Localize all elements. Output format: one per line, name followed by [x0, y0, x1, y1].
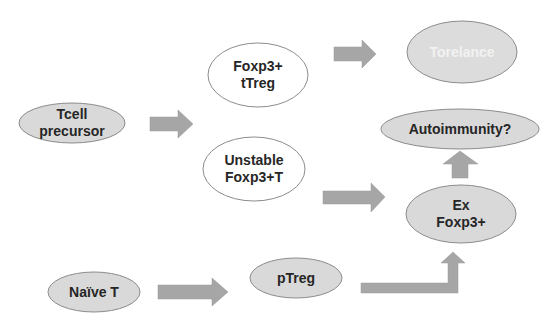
- node-foxp3-ttreg: Foxp3+ tTreg: [208, 43, 308, 107]
- node-foxp3-ttreg-line2: tTreg: [241, 75, 275, 91]
- node-naive-t-label: Naïve T: [69, 284, 119, 300]
- node-naive-t: Naïve T: [48, 272, 140, 312]
- node-ex-foxp3-line1: Ex: [452, 197, 469, 213]
- arrow-right-icon: [150, 110, 193, 138]
- diagram-svg: Tcell precursor Foxp3+ tTreg Torelance A…: [0, 0, 557, 325]
- bent-arrow-up-icon: [361, 252, 465, 293]
- node-autoimmunity: Autoimmunity?: [381, 109, 539, 149]
- node-torelance-label: Torelance: [429, 44, 494, 60]
- arrow-right-icon: [334, 40, 376, 68]
- node-autoimmunity-label: Autoimmunity?: [409, 121, 512, 137]
- node-unstable-foxp3: Unstable Foxp3+T: [203, 137, 305, 201]
- node-tcell-precursor: Tcell precursor: [19, 103, 125, 143]
- node-unstable-foxp3-line2: Foxp3+T: [225, 169, 283, 185]
- arrow-right-icon: [323, 183, 385, 212]
- diagram-canvas: Tcell precursor Foxp3+ tTreg Torelance A…: [0, 0, 557, 325]
- node-ptreg-label: pTreg: [277, 270, 315, 286]
- node-ptreg: pTreg: [250, 258, 342, 298]
- node-ex-foxp3-line2: Foxp3+: [436, 214, 485, 230]
- arrow-right-icon: [158, 278, 228, 306]
- node-foxp3-ttreg-line1: Foxp3+: [233, 58, 282, 74]
- node-ex-foxp3: Ex Foxp3+: [406, 185, 516, 243]
- node-unstable-foxp3-line1: Unstable: [224, 152, 283, 168]
- node-tcell-precursor-line2: precursor: [39, 123, 105, 139]
- node-tcell-precursor-line1: Tcell: [57, 106, 88, 122]
- node-torelance: Torelance: [407, 21, 517, 83]
- arrow-up-icon: [443, 151, 478, 178]
